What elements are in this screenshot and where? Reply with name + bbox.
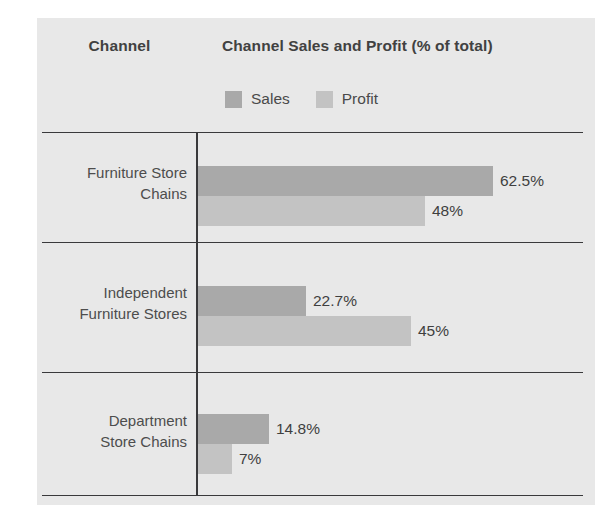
legend-swatch-icon — [225, 91, 242, 108]
category-label: Independent Furniture Stores — [37, 282, 187, 324]
bar-value-profit: 7% — [239, 450, 261, 468]
bar-profit[interactable] — [198, 196, 425, 226]
chart-group-row: Department Store Chains 14.8% 7% — [37, 372, 595, 495]
category-label: Department Store Chains — [37, 410, 187, 452]
column-header-channel: Channel — [42, 37, 197, 55]
bar-profit[interactable] — [198, 444, 232, 474]
legend-item-profit[interactable]: Profit — [316, 90, 378, 108]
bar-value-sales: 14.8% — [276, 420, 320, 438]
bar-row-sales[interactable]: 14.8% — [198, 414, 320, 444]
bar-value-profit: 48% — [432, 202, 463, 220]
category-label-line: Chains — [37, 183, 187, 204]
bar-row-sales[interactable]: 62.5% — [198, 166, 544, 196]
chart-header: Channel Channel Sales and Profit (% of t… — [37, 18, 595, 62]
bar-group: 14.8% 7% — [198, 372, 595, 495]
category-label-line: Department — [37, 410, 187, 431]
legend-label-sales: Sales — [251, 90, 290, 108]
chart-card: Channel Channel Sales and Profit (% of t… — [37, 18, 595, 505]
category-label-line: Independent — [37, 282, 187, 303]
bar-sales[interactable] — [198, 166, 493, 196]
category-label-line: Furniture Store — [37, 162, 187, 183]
bar-value-profit: 45% — [418, 322, 449, 340]
bar-group: 62.5% 48% — [198, 132, 595, 242]
chart-title: Channel Sales and Profit (% of total) — [222, 37, 493, 55]
bar-sales[interactable] — [198, 286, 306, 316]
bar-sales[interactable] — [198, 414, 269, 444]
bottom-axis-rule — [42, 495, 583, 496]
category-label: Furniture Store Chains — [37, 162, 187, 204]
chart-group-row: Furniture Store Chains 62.5% 48% — [37, 132, 595, 242]
bar-group: 22.7% 45% — [198, 242, 595, 372]
legend-item-sales[interactable]: Sales — [225, 90, 290, 108]
chart-legend: Sales Profit — [225, 90, 378, 108]
bar-value-sales: 62.5% — [500, 172, 544, 190]
chart-group-row: Independent Furniture Stores 22.7% 45% — [37, 242, 595, 372]
bar-value-sales: 22.7% — [313, 292, 357, 310]
category-label-line: Furniture Stores — [37, 303, 187, 324]
bar-profit[interactable] — [198, 316, 411, 346]
category-label-line: Store Chains — [37, 431, 187, 452]
legend-label-profit: Profit — [342, 90, 378, 108]
bar-row-profit[interactable]: 45% — [198, 316, 449, 346]
legend-swatch-icon — [316, 91, 333, 108]
bar-row-profit[interactable]: 48% — [198, 196, 463, 226]
bar-row-profit[interactable]: 7% — [198, 444, 261, 474]
bar-row-sales[interactable]: 22.7% — [198, 286, 357, 316]
